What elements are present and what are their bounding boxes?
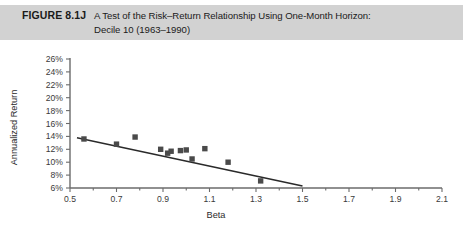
data-point-marker: [189, 156, 194, 161]
figure-caption-line-1: A Test of the Risk–Return Relationship U…: [94, 9, 454, 23]
y-tick-label: 8%: [51, 170, 64, 180]
y-tick-label: 18%: [46, 106, 64, 116]
figure-caption-line-2: Decile 10 (1963–1990): [94, 23, 454, 37]
figure-number-label: FIGURE 8.1J: [22, 9, 86, 21]
data-point-marker: [81, 136, 86, 141]
data-point-marker: [225, 160, 230, 165]
y-tick-label: 12%: [46, 144, 64, 154]
data-point-markers: [81, 134, 263, 183]
regression-trend-line: [77, 138, 303, 186]
figure-caption: A Test of the Risk–Return Relationship U…: [94, 9, 454, 36]
y-axis-title: Annualized Return: [9, 90, 19, 166]
data-point-marker: [132, 134, 137, 139]
x-tick-label: 1.1: [204, 194, 216, 204]
y-tick-label: 14%: [46, 131, 64, 141]
y-tick-label: 24%: [46, 67, 64, 77]
y-tick-label: 22%: [46, 80, 64, 90]
y-tick-label: 26%: [46, 54, 64, 64]
y-tick-label: 20%: [46, 93, 64, 103]
data-point-marker: [158, 147, 163, 152]
y-axis-tick-labels: 6%8%10%12%14%16%18%20%22%24%26%: [46, 54, 64, 193]
data-point-marker: [178, 148, 183, 153]
y-tick-label: 10%: [46, 157, 64, 167]
chart-plot-area: 6%8%10%12%14%16%18%20%22%24%26% 0.50.70.…: [0, 45, 463, 231]
y-tick-label: 16%: [46, 119, 64, 129]
data-point-marker: [202, 146, 207, 151]
x-tick-label: 0.7: [111, 194, 123, 204]
data-point-marker: [168, 149, 173, 154]
scatter-chart-svg: 6%8%10%12%14%16%18%20%22%24%26% 0.50.70.…: [0, 45, 463, 231]
data-point-marker: [184, 147, 189, 152]
x-tick-label: 1.3: [250, 194, 262, 204]
figure-container: FIGURE 8.1J A Test of the Risk–Return Re…: [0, 0, 463, 231]
x-axis-title: Beta: [207, 210, 227, 220]
x-tick-label: 0.5: [64, 194, 76, 204]
y-tick-label: 6%: [51, 183, 64, 193]
x-tick-label: 0.9: [157, 194, 169, 204]
x-tick-label: 1.5: [297, 194, 309, 204]
x-tick-label: 1.9: [390, 194, 402, 204]
data-point-marker: [114, 141, 119, 146]
x-axis-tick-labels: 0.50.70.91.11.31.51.71.92.1: [64, 194, 448, 204]
x-tick-label: 1.7: [343, 194, 355, 204]
data-point-marker: [258, 178, 263, 183]
figure-header-band: FIGURE 8.1J A Test of the Risk–Return Re…: [0, 5, 463, 40]
x-tick-label: 2.1: [436, 194, 448, 204]
